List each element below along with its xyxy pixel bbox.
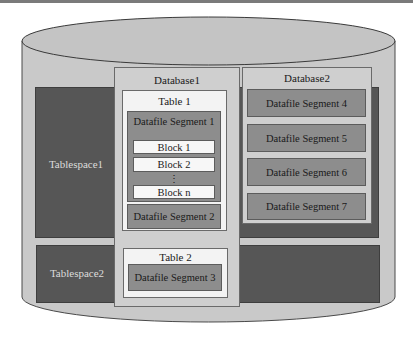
datafile-segment-4: Datafile Segment 4 [247,89,366,117]
datafile-segment-1-label: Datafile Segment 1 [133,116,214,127]
datafile-segment-6: Datafile Segment 6 [247,158,366,186]
datafile-segment-7-label: Datafile Segment 7 [266,201,347,212]
datafile-segment-5: Datafile Segment 5 [247,124,366,152]
table-2-label: Table 2 [124,251,227,263]
datafile-segment-4-label: Datafile Segment 4 [266,98,347,109]
database-2-label: Database2 [243,72,371,84]
ellipsis-icon: ⋮ [133,173,215,184]
datafile-segment-2: Datafile Segment 2 [127,204,221,229]
block-1: Block 1 [133,140,215,154]
block-2: Block 2 [133,157,215,172]
block-n-label: Block n [158,187,191,198]
block-1-label: Block 1 [158,142,191,153]
datafile-segment-5-label: Datafile Segment 5 [266,133,347,144]
datafile-segment-7: Datafile Segment 7 [247,193,366,220]
block-n: Block n [133,185,215,199]
tablespace-1-label: Tablespace1 [36,158,116,170]
datafile-segment-6-label: Datafile Segment 6 [266,167,347,178]
datafile-segment-2-label: Datafile Segment 2 [133,211,214,222]
tablespace-2-label: Tablespace2 [37,267,117,279]
table-1-label: Table 1 [123,95,226,107]
database-1-label: Database1 [115,74,239,86]
block-2-label: Block 2 [158,159,191,170]
datafile-segment-3-label: Datafile Segment 3 [134,272,215,283]
datafile-segment-3: Datafile Segment 3 [128,264,222,291]
